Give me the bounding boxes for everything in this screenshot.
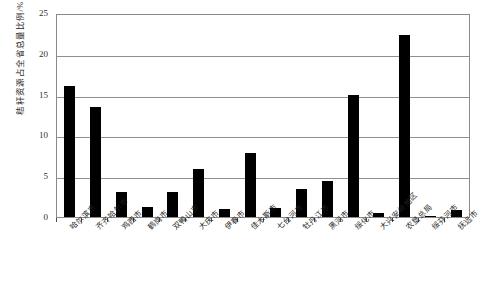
x-label-slot: 双鸭山市 bbox=[160, 222, 186, 284]
bar-series bbox=[57, 15, 469, 217]
x-label-slot: 大庆市 bbox=[185, 222, 211, 284]
bar-slot bbox=[418, 15, 444, 217]
bar-slot bbox=[237, 15, 263, 217]
bar-slot bbox=[134, 15, 160, 217]
x-label-slot: 黑河市 bbox=[315, 222, 341, 284]
y-axis-tick-label: 15 bbox=[24, 91, 48, 100]
y-axis-tick-label: 20 bbox=[24, 50, 48, 59]
x-label-slot: 绥化市 bbox=[341, 222, 367, 284]
bar-slot bbox=[315, 15, 341, 217]
y-axis-tick-label: 25 bbox=[24, 9, 48, 18]
bar bbox=[348, 95, 359, 217]
x-label-slot: 抚远市 bbox=[444, 222, 470, 284]
x-label-slot: 伊春市 bbox=[211, 222, 237, 284]
x-label-slot: 佳木斯市 bbox=[237, 222, 263, 284]
bar-slot bbox=[212, 15, 238, 217]
bar-chart: 秸秆资源占全省总量比例/% 0510152025 哈尔滨市齐齐哈尔市鸡西市鹤岗市… bbox=[0, 0, 479, 285]
x-label-slot: 农垦总局 bbox=[392, 222, 418, 284]
y-axis-tick-label: 5 bbox=[24, 172, 48, 181]
x-label-slot: 七台河市 bbox=[263, 222, 289, 284]
x-label-slot: 大兴安岭地区 bbox=[367, 222, 393, 284]
bar-slot bbox=[340, 15, 366, 217]
plot-area bbox=[56, 14, 470, 218]
y-axis-tick-labels: 0510152025 bbox=[22, 0, 48, 230]
bar-slot bbox=[109, 15, 135, 217]
bar bbox=[245, 153, 256, 217]
x-label-slot: 牡丹江市 bbox=[289, 222, 315, 284]
bar-slot bbox=[366, 15, 392, 217]
x-label-slot: 齐齐哈尔市 bbox=[82, 222, 108, 284]
bar-slot bbox=[392, 15, 418, 217]
bar-slot bbox=[443, 15, 469, 217]
y-axis-tick-label: 0 bbox=[24, 213, 48, 222]
bar-slot bbox=[289, 15, 315, 217]
x-axis-category-labels: 哈尔滨市齐齐哈尔市鸡西市鹤岗市双鸭山市大庆市伊春市佳木斯市七台河市牡丹江市黑河市… bbox=[56, 222, 470, 284]
bar bbox=[90, 107, 101, 217]
x-label-slot: 鹤岗市 bbox=[134, 222, 160, 284]
bar-slot bbox=[263, 15, 289, 217]
bar-slot bbox=[57, 15, 83, 217]
bar bbox=[399, 35, 410, 217]
x-label-slot: 绥芬河市 bbox=[418, 222, 444, 284]
y-axis-tick-label: 10 bbox=[24, 131, 48, 140]
bar-slot bbox=[83, 15, 109, 217]
bar bbox=[64, 86, 75, 217]
bar-slot bbox=[186, 15, 212, 217]
x-label-slot: 哈尔滨市 bbox=[56, 222, 82, 284]
bar-slot bbox=[160, 15, 186, 217]
x-label-slot: 鸡西市 bbox=[108, 222, 134, 284]
